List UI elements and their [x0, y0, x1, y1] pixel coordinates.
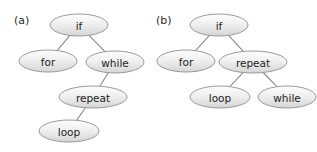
- node-label: for: [41, 56, 56, 68]
- tree-node-a-repeat[interactable]: repeat: [59, 86, 127, 108]
- tree-edge: [196, 35, 210, 50]
- tree-edge: [89, 35, 105, 51]
- node-label: while: [273, 92, 301, 104]
- node-label: if: [76, 20, 83, 32]
- tree-node-b-loop[interactable]: loop: [190, 86, 250, 108]
- tree-edge: [100, 73, 108, 87]
- tree-node-b-while[interactable]: while: [258, 86, 316, 108]
- tree-node-a-if[interactable]: if: [50, 14, 108, 36]
- nodes-layer: ifforwhilerepeatloopifforrepeatloopwhile: [19, 14, 316, 142]
- node-label: loop: [58, 126, 81, 138]
- tree-node-a-for[interactable]: for: [19, 50, 77, 72]
- node-label: repeat: [76, 92, 110, 104]
- node-label: loop: [209, 92, 232, 104]
- node-label: repeat: [236, 57, 270, 69]
- tree-node-b-for[interactable]: for: [157, 50, 215, 72]
- tree-diagram-figure: ifforwhilerepeatloopifforrepeatloopwhile…: [0, 0, 317, 152]
- panel-label-b: (b): [156, 14, 172, 27]
- tree-edge: [263, 72, 277, 86]
- tree-edge: [77, 108, 86, 121]
- tree-node-b-if[interactable]: if: [190, 14, 248, 36]
- tree-node-a-loop[interactable]: loop: [39, 120, 99, 142]
- tree-edge: [229, 35, 244, 51]
- tree-node-b-repeat[interactable]: repeat: [219, 51, 287, 73]
- tree-edge: [230, 73, 243, 87]
- panel-label-a: (a): [14, 14, 29, 27]
- node-label: if: [216, 20, 223, 32]
- tree-node-a-while[interactable]: while: [86, 51, 144, 73]
- tree-diagram-canvas: ifforwhilerepeatloopifforrepeatloopwhile…: [0, 0, 317, 152]
- tree-edge: [57, 35, 70, 50]
- node-label: for: [179, 56, 194, 68]
- node-label: while: [101, 57, 129, 69]
